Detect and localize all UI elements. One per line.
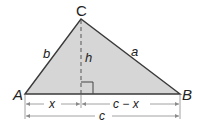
segment-label-x: x [48, 97, 56, 111]
vertex-label-a: A [12, 86, 23, 103]
vertex-label-c: C [76, 2, 87, 19]
segment-label-c: c [99, 109, 105, 123]
triangle-diagram: C A B b a h x c − x c [0, 0, 198, 129]
segment-label-c-minus-x: c − x [113, 97, 140, 111]
side-label-a: a [131, 44, 138, 59]
altitude-label-h: h [85, 50, 92, 65]
side-label-b: b [43, 46, 50, 61]
vertex-label-b: B [182, 86, 192, 103]
